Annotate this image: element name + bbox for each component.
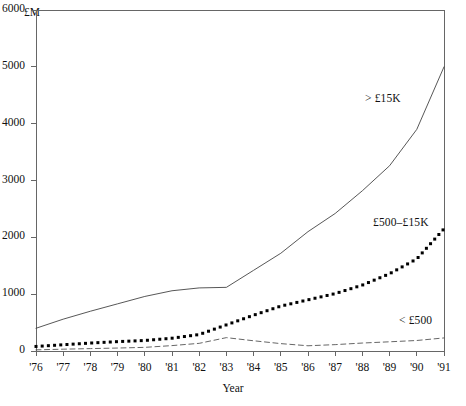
x-axis-tick-label: '83 [212,361,240,373]
series-dot [390,271,393,274]
x-axis-tick-label: '85 [267,361,295,373]
series-dot [195,333,198,336]
series-dot [373,279,376,282]
x-axis-tick-label: '77 [49,361,77,373]
y-axis-tick-label: 4000 [0,116,25,128]
x-axis-tick-label: '87 [321,361,349,373]
series-dot [127,340,130,343]
x-axis-tick-label: '82 [185,361,213,373]
series-dot [266,309,269,312]
series-dot [146,339,149,342]
x-axis-tick-label: '80 [131,361,159,373]
plot-area [0,0,466,406]
series-dot [425,247,428,250]
series-dot [355,285,358,288]
series-dot [361,283,364,286]
series-dot [437,233,440,236]
series-dot [384,274,387,277]
series-dot [84,342,87,345]
y-axis-ticks [31,10,36,351]
series-dot [53,344,56,347]
series-dot [230,321,233,324]
series-dot [307,298,310,301]
series-dot [295,301,298,304]
x-axis-tick-label: '76 [22,361,50,373]
series-dot [219,326,222,329]
y-axis-tick-label: 1000 [0,286,25,298]
series-dot [277,305,280,308]
series-dot [421,251,424,254]
series-dot [103,341,106,344]
series-dot [164,337,167,340]
y-axis-tick-label: 0 [0,343,25,355]
series-dot [248,315,251,318]
series-dot [326,294,329,297]
series-dot [201,332,204,335]
series-dot [442,228,445,231]
x-axis-tick-label: '84 [240,361,268,373]
series-dot [72,343,75,346]
series-dot [283,304,286,307]
series-dot [90,341,93,344]
series-dot [171,337,174,340]
series-dot [260,311,263,314]
series-dot [332,293,335,296]
series-dot [183,335,186,338]
series-dot [115,340,118,343]
x-axis-tick-label: '91 [430,361,458,373]
series-solid [36,67,444,328]
series-dot [242,317,245,320]
series-dot [41,345,44,348]
series-dot [254,313,257,316]
series-dot [378,276,381,279]
series-dot [134,339,137,342]
x-axis-tick-label: '78 [76,361,104,373]
series-dot [401,265,404,268]
x-axis-tick-label: '90 [403,361,431,373]
series-dot [35,345,38,348]
y-axis-tick-label: 3000 [0,173,25,185]
series-dot [338,291,341,294]
series-dot [236,319,239,322]
series-dot [189,334,192,337]
x-axis-tick-label: '86 [294,361,322,373]
x-axis-title: Year [168,382,298,394]
series-dot [349,287,352,290]
series-dot [59,343,62,346]
series-dot [65,343,68,346]
series-dot [301,300,304,303]
series-dot [433,238,436,241]
series-dot [367,281,370,284]
series-label-mid: £500–£15K [373,216,429,228]
series-label-high: > £15K [365,92,401,104]
series-dot [109,341,112,344]
x-axis-tick-label: '88 [348,361,376,373]
series-dot [289,302,292,305]
series-dot [343,289,346,292]
series-dot [121,340,124,343]
series-dot [177,336,180,339]
series-dot [96,341,99,344]
series-dotted [35,228,445,348]
series-dot [140,339,143,342]
series-dot [417,256,420,259]
series-dot [47,344,50,347]
data-series-group [35,67,445,350]
series-dot [213,328,216,331]
series-label-low: < £500 [399,314,432,326]
x-axis-tick-label: '79 [104,361,132,373]
series-dot [207,330,210,333]
series-dot [395,268,398,271]
y-axis-tick-label: 5000 [0,59,25,71]
chart-container: £M 0100020003000400050006000 '76'77'78'7… [0,0,466,406]
series-dot [225,323,228,326]
series-dot [78,342,81,345]
series-dot [158,338,161,341]
series-dot [406,262,409,265]
series-dot [152,338,155,341]
series-dot [313,297,316,300]
series-dot [412,259,415,262]
series-dot [271,307,274,310]
y-axis-tick-label: 2000 [0,229,25,241]
series-dot [429,242,432,245]
